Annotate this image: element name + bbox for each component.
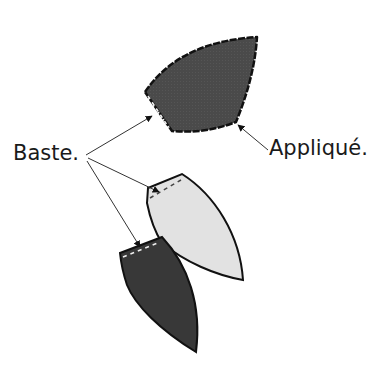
applique-label: Appliqué. [269,136,368,160]
diagram-canvas [0,0,376,374]
applique-arrow [238,125,268,150]
baste-arrow-dark [87,161,140,247]
top-applique-shape [145,37,257,132]
baste-label: Baste. [13,141,79,165]
baste-arrow-light [88,158,159,192]
baste-arrow-top [86,116,152,155]
